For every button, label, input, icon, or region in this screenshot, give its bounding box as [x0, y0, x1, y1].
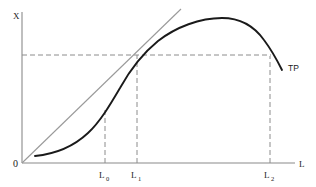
total-product-curve: [35, 18, 282, 156]
ray-from-origin: [22, 9, 181, 163]
x-tick-L2-subscript: 2: [271, 175, 274, 182]
axes-group: [22, 12, 295, 163]
x-tick-L1-label: L: [131, 170, 137, 180]
x-tick-L0-subscript: 0: [106, 175, 109, 182]
y-axis-label: X: [13, 11, 20, 21]
tp-curve-label: TP: [288, 63, 299, 73]
origin-label: 0: [13, 158, 18, 169]
guide-lines-group: [22, 55, 271, 163]
x-tick-L1: L 1: [131, 170, 141, 182]
x-tick-L1-subscript: 1: [138, 175, 141, 182]
total-product-chart: X L 0 L 0 L 1 L 2 TP: [0, 0, 316, 187]
x-tick-L0: L 0: [99, 170, 109, 182]
x-tick-L2: L 2: [264, 170, 274, 182]
x-tick-L2-label: L: [264, 170, 270, 180]
x-tick-L0-label: L: [99, 170, 105, 180]
x-axis-label: L: [299, 159, 305, 169]
chart-canvas: X L 0 L 0 L 1 L 2 TP: [0, 0, 316, 187]
